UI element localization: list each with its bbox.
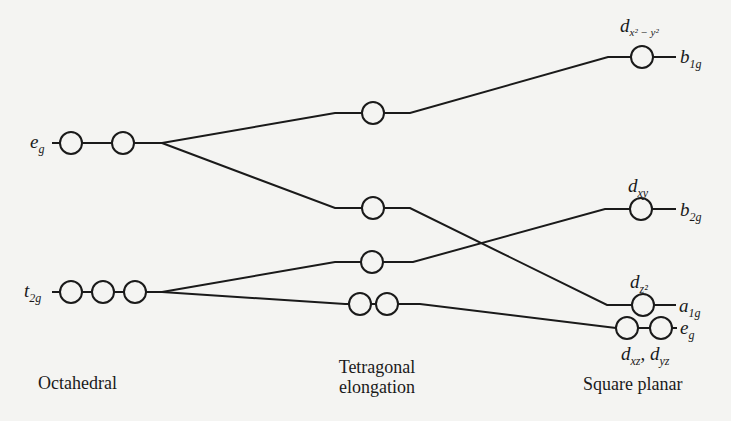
tetragonal-orbital-1: [362, 102, 384, 124]
square-b2g-orbital: [630, 198, 652, 220]
connector-line: [384, 208, 632, 305]
connector-line: [383, 209, 630, 262]
square-eg-orbital-b: [650, 317, 672, 339]
orbital-circle: [60, 281, 82, 303]
label-dz2: dz²: [630, 272, 648, 295]
label-dxy: dxy: [628, 176, 648, 199]
caption-square-planar: Square planar: [583, 374, 682, 394]
octahedral-t2g-level: [52, 281, 162, 303]
tetragonal-orbital-2: [362, 197, 384, 219]
tetragonal-orbital-4a: [349, 293, 371, 315]
connector-line: [398, 304, 616, 328]
orbital-circle: [92, 281, 114, 303]
label-t2g: t2g: [24, 281, 41, 304]
square-eg-orbital-a: [616, 317, 638, 339]
label-eg-square: eg: [680, 318, 694, 341]
connector-line: [162, 292, 349, 304]
tetragonal-orbital-4b: [376, 293, 398, 315]
label-a1g: a1g: [679, 296, 701, 319]
caption-octahedral: Octahedral: [38, 373, 117, 393]
connector-line: [162, 113, 362, 143]
label-dxz-dyz: dxz, dyz: [621, 344, 670, 367]
caption-tetragonal-line1: Tetragonal: [327, 357, 427, 377]
orbital-circle: [124, 281, 146, 303]
label-eg: eg: [30, 132, 44, 155]
orbital-circle: [60, 132, 82, 154]
connector-line: [162, 262, 361, 292]
tetragonal-orbital-3: [361, 251, 383, 273]
octahedral-eg-level: [52, 132, 162, 154]
label-b2g: b2g: [680, 200, 702, 223]
connector-line: [162, 143, 362, 208]
connector-line: [384, 57, 631, 113]
caption-tetragonal-line2: elongation: [327, 377, 427, 397]
square-a1g-orbital: [632, 294, 654, 316]
square-b1g-orbital: [631, 46, 653, 68]
label-b1g: b1g: [680, 47, 702, 70]
orbital-circle: [112, 132, 134, 154]
label-dx2y2: dx² − y²: [620, 16, 659, 38]
caption-tetragonal: Tetragonal elongation: [327, 357, 427, 397]
